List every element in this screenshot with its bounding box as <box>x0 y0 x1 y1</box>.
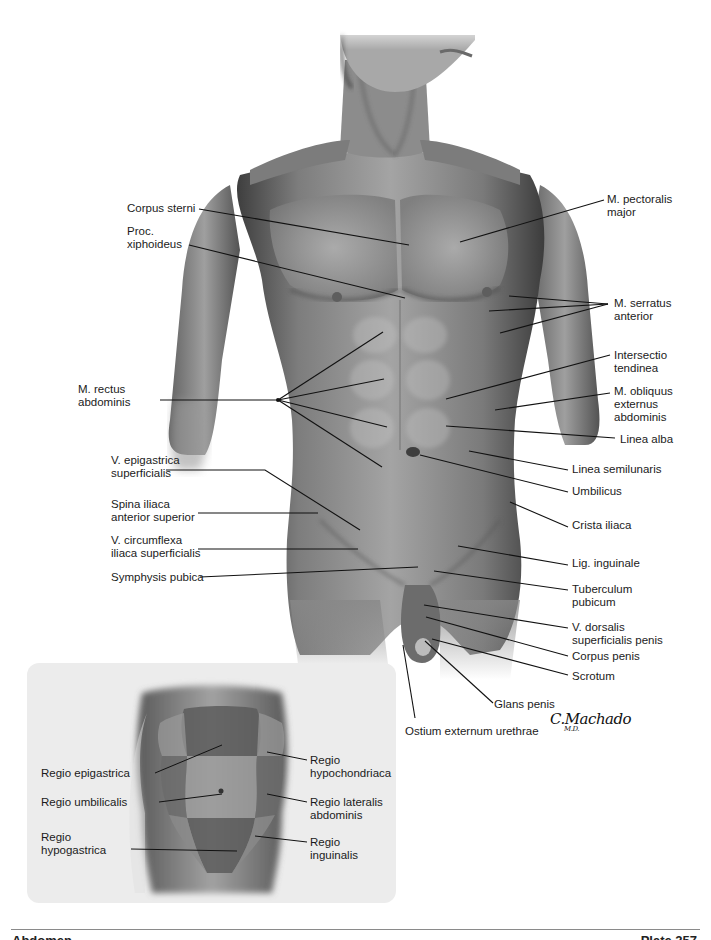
label-symphysis-pubica: Symphysis pubica <box>111 571 204 584</box>
label-regio-hypogastrica: Regio hypogastrica <box>41 831 106 857</box>
artist-signature: C.Machado M.D. <box>550 710 631 733</box>
region-epigastric <box>181 706 260 756</box>
label-m-obliquus-externus-abdominis: M. obliquus externus abdominis <box>614 385 673 424</box>
label-umbilicus: Umbilicus <box>572 485 622 498</box>
footer-section-title: Abdomen <box>12 934 72 940</box>
label-corpus-penis: Corpus penis <box>572 650 640 663</box>
label-corpus-sterni: Corpus sterni <box>127 202 195 215</box>
label-regio-epigastrica: Regio epigastrica <box>41 767 130 780</box>
inset-abdominal-regions: Regio epigastrica Regio umbilicalis Regi… <box>27 663 396 903</box>
label-crista-iliaca: Crista iliaca <box>572 519 631 532</box>
label-m-rectus-abdominis: M. rectus abdominis <box>78 383 130 409</box>
umbilicus-mark <box>406 447 420 457</box>
label-regio-umbilicalis: Regio umbilicalis <box>41 796 127 809</box>
label-proc-xiphoideus: Proc. xiphoideus <box>127 225 182 251</box>
label-linea-semilunaris: Linea semilunaris <box>572 463 662 476</box>
footer-plate-number: Plate 257 <box>641 934 697 940</box>
label-tuberculum-pubicum: Tuberculum pubicum <box>572 583 632 609</box>
label-m-serratus-anterior: M. serratus anterior <box>614 297 672 323</box>
label-linea-alba: Linea alba <box>620 433 673 446</box>
region-umbilical <box>185 756 257 818</box>
label-scrotum: Scrotum <box>572 670 615 683</box>
label-regio-hypochondriaca: Regio hypochondriaca <box>310 754 391 780</box>
label-intersectio-tendinea: Intersectio tendinea <box>614 349 667 375</box>
nipple-mark <box>332 292 342 302</box>
label-glans-penis: Glans penis <box>494 698 555 711</box>
label-regio-lateralis-abdominis: Regio lateralis abdominis <box>310 796 383 822</box>
label-lig-inguinale: Lig. inguinale <box>572 557 640 570</box>
label-regio-inguinalis: Regio inguinalis <box>310 836 358 862</box>
label-v-epigastrica-superficialis: V. epigastrica superficialis <box>111 454 180 480</box>
label-m-pectoralis-major: M. pectoralis major <box>607 193 672 219</box>
inset-torso-illustration <box>27 663 396 903</box>
label-spina-iliaca-anterior-superior: Spina iliaca anterior superior <box>111 498 195 524</box>
footer-divider <box>11 929 700 930</box>
label-v-dorsalis-superficialis-penis: V. dorsalis superficialis penis <box>572 621 663 647</box>
label-v-circumflexa-iliaca-superficialis: V. circumflexa iliaca superficialis <box>111 534 200 560</box>
label-ostium-externum-urethrae: Ostium externum urethrae <box>405 725 539 738</box>
